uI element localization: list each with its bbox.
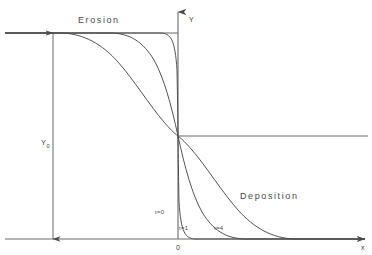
origin-label: 0 bbox=[176, 244, 180, 251]
erosion-label: Erosion bbox=[78, 16, 120, 25]
figure-canvas bbox=[0, 0, 372, 255]
curve-label-t1: t=1 bbox=[179, 225, 188, 231]
amplitude-label-subscript: 0 bbox=[47, 143, 50, 149]
curve-label-t0: t=0 bbox=[155, 209, 164, 215]
amplitude-label: Y0 bbox=[41, 139, 50, 149]
erosion-deposition-diffusion-figure: Erosion Deposition Y x 0 Y0 t=0 t=1 t=4 bbox=[0, 0, 372, 255]
y-axis-label: Y bbox=[189, 16, 194, 23]
deposition-label: Deposition bbox=[240, 192, 299, 201]
curve-label-t4: t=4 bbox=[214, 225, 223, 231]
x-axis-label: x bbox=[361, 244, 365, 251]
